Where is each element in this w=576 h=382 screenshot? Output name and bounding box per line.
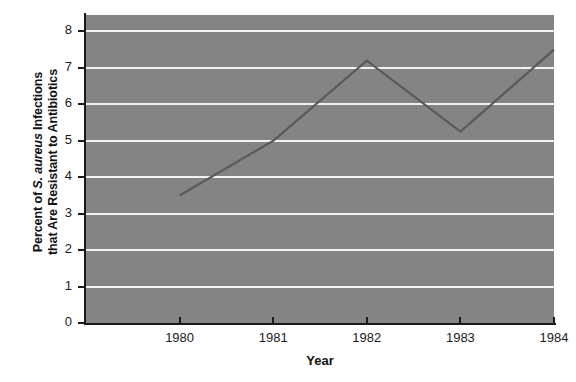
- y-tick-mark-2: [78, 249, 85, 251]
- y-tick-mark-0: [78, 322, 85, 324]
- y-axis-title: Percent of S. aureus Infections that Are…: [26, 12, 66, 312]
- x-tick-label-1982: 1982: [332, 330, 402, 345]
- y-tick-label-1: 1: [32, 278, 72, 293]
- x-tick-label-1980: 1980: [145, 330, 215, 345]
- y-tick-label-3: 3: [32, 205, 72, 220]
- y-tick-mark-6: [78, 103, 85, 105]
- x-axis-title: Year: [86, 353, 554, 368]
- x-tick-mark-1982: [366, 317, 368, 325]
- x-tick-mark-1983: [459, 317, 461, 325]
- y-tick-label-2: 2: [32, 241, 72, 256]
- line-chart: Percent of S. aureus Infections that Are…: [0, 0, 576, 382]
- x-tick-mark-1980: [179, 317, 181, 325]
- x-tick-mark-1984: [553, 317, 555, 325]
- y-tick-label-8: 8: [32, 22, 72, 37]
- y-tick-label-7: 7: [32, 59, 72, 74]
- y-tick-label-6: 6: [32, 95, 72, 110]
- y-tick-mark-7: [78, 67, 85, 69]
- y-tick-mark-3: [78, 213, 85, 215]
- x-tick-mark-1981: [272, 317, 274, 325]
- y-tick-label-4: 4: [32, 168, 72, 183]
- y-tick-label-0: 0: [32, 314, 72, 329]
- x-tick-label-1981: 1981: [238, 330, 308, 345]
- y-tick-mark-4: [78, 176, 85, 178]
- x-tick-label-1983: 1983: [425, 330, 495, 345]
- x-tick-label-1984: 1984: [519, 330, 576, 345]
- y-axis-line: [84, 13, 86, 325]
- plot-area: [86, 15, 554, 323]
- y-tick-mark-8: [78, 30, 85, 32]
- y-tick-mark-5: [78, 140, 85, 142]
- series-line-percent-resistant: [180, 50, 554, 196]
- y-tick-label-5: 5: [32, 132, 72, 147]
- x-axis-line: [84, 323, 556, 325]
- series-line-group: [86, 15, 554, 323]
- y-tick-mark-1: [78, 286, 85, 288]
